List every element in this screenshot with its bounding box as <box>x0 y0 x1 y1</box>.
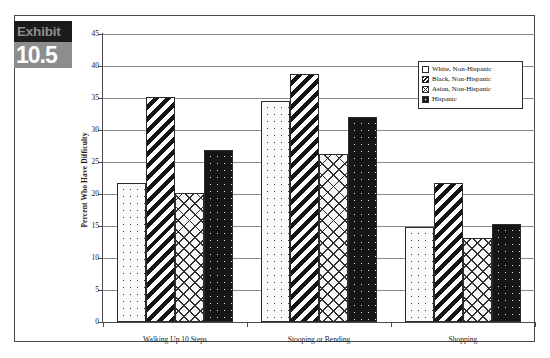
legend-item[interactable]: White, Non-Hispanic <box>422 65 518 75</box>
y-axis-tick-label: 45 <box>79 30 99 38</box>
x-axis-tick <box>535 322 536 327</box>
bar <box>319 154 348 322</box>
legend-label: White, Non-Hispanic <box>432 66 492 73</box>
bar <box>261 101 290 322</box>
legend-swatch-icon <box>422 76 429 83</box>
exhibit-tag: Exhibit 10.5 <box>14 21 72 68</box>
legend-swatch-icon <box>422 86 429 93</box>
y-axis-tick-label: 5 <box>79 286 99 294</box>
legend-label: Asian, Non-Hispanic <box>432 86 491 93</box>
bar <box>175 193 204 322</box>
exhibit-label: Exhibit <box>17 25 61 39</box>
bar <box>146 97 175 322</box>
bar <box>434 183 463 322</box>
bar <box>117 183 146 322</box>
legend-label: Hispanic <box>432 96 457 103</box>
bar <box>290 74 319 322</box>
y-axis-tick-label: 40 <box>79 62 99 70</box>
legend-item[interactable]: Black, Non-Hispanic <box>422 75 518 85</box>
exhibit-number: 10.5 <box>16 44 57 67</box>
bar <box>204 150 233 322</box>
y-axis-tick-label: 20 <box>79 190 99 198</box>
x-axis-tick <box>247 322 248 327</box>
y-axis-tick-label: 25 <box>79 158 99 166</box>
y-axis-title: Percent Who Have Difficulty <box>72 0 81 120</box>
legend-swatch-icon <box>422 66 429 73</box>
bar-group <box>117 34 233 322</box>
legend-label: Black, Non-Hispanic <box>432 76 491 83</box>
x-axis-label: Shopping <box>375 335 550 344</box>
legend-item[interactable]: Asian, Non-Hispanic <box>422 85 518 95</box>
y-axis-tick-label: 30 <box>79 126 99 134</box>
bar <box>405 227 434 322</box>
y-axis-tick-label: 10 <box>79 254 99 262</box>
x-axis-tick <box>391 322 392 327</box>
y-axis-tick-label: 15 <box>79 222 99 230</box>
bar <box>492 224 521 322</box>
y-axis-tick-label: 35 <box>79 94 99 102</box>
chart-legend: White, Non-HispanicBlack, Non-HispanicAs… <box>418 61 523 109</box>
bar-group <box>261 34 377 322</box>
y-axis-tick-label: 0 <box>79 318 99 326</box>
bar <box>348 117 377 322</box>
legend-item[interactable]: Hispanic <box>422 95 518 105</box>
exhibit-tag-top: Exhibit <box>14 21 72 42</box>
bar <box>463 238 492 322</box>
legend-swatch-icon <box>422 96 429 103</box>
exhibit-tag-bottom: 10.5 <box>14 42 72 68</box>
x-axis-line <box>102 322 536 323</box>
x-axis-tick <box>103 322 104 327</box>
